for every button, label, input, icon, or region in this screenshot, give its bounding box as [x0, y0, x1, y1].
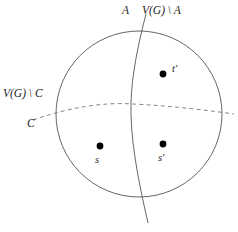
vertex-point-t-prime: [160, 71, 167, 78]
region-label-vg-minus-c: V(G) \ C: [3, 88, 43, 100]
region-label-A: A: [122, 5, 129, 17]
point-label-s-prime: s′: [158, 153, 164, 164]
region-label-C: C: [27, 118, 35, 130]
vertex-point-s: [97, 143, 104, 150]
set-partition-diagram: [0, 0, 238, 232]
point-label-t-prime: t′: [172, 64, 177, 75]
outer-circle-boundary: [56, 31, 222, 197]
vertex-point-s-prime: [160, 141, 167, 148]
point-label-s: s: [95, 155, 99, 166]
region-label-vg-minus-a: V(G) \ A: [142, 5, 181, 17]
dashed-partition-curve: [33, 104, 234, 120]
vertical-partition-curve: [131, 14, 148, 223]
